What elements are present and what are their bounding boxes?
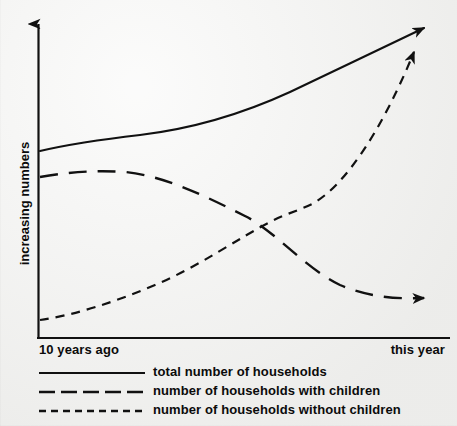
y-axis-label: increasing numbers [17,114,32,294]
x-axis-end-label: this year [391,342,445,357]
x-axis-start-label: 10 years ago [39,342,119,357]
chart-legend: total number of households number of hou… [38,362,450,419]
series-line-total-households [40,28,424,151]
series-line-with-children [40,171,424,298]
legend-swatch-solid [38,365,146,379]
series-line-without-children [40,52,414,320]
legend-item-total-households: total number of households [38,362,450,381]
chart-page: increasing numbers 10 years ago this yea… [0,0,457,426]
legend-swatch-long-dashed [38,384,146,398]
legend-label-without-children: number of households without children [153,402,401,417]
legend-swatch-short-dashed [38,403,146,417]
legend-item-with-children: number of households with children [38,381,450,400]
legend-label-with-children: number of households with children [153,383,380,398]
legend-item-without-children: number of households without children [38,400,450,419]
legend-label-total-households: total number of households [153,364,327,379]
